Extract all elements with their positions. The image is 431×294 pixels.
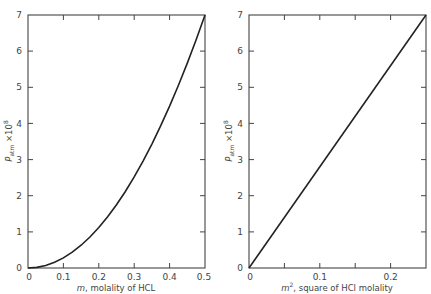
right-y-axis-label: Patm ×108 bbox=[222, 120, 235, 162]
left-y-tick-6: 6 bbox=[16, 46, 22, 56]
figure: 0 1 2 3 4 5 6 7 0 0.1 0.2 0.3 0.4 0.5 m,… bbox=[0, 0, 431, 294]
left-x-tick-1: 0.1 bbox=[56, 272, 70, 282]
left-curve bbox=[28, 15, 205, 268]
right-y-tick-6: 6 bbox=[237, 46, 243, 56]
left-y-tick-7: 7 bbox=[16, 10, 22, 20]
left-y-tick-2: 2 bbox=[16, 191, 22, 201]
left-y-tick-4: 4 bbox=[16, 119, 22, 129]
left-y-tick-5: 5 bbox=[16, 82, 22, 92]
left-y-axis-label: Patm ×108 bbox=[2, 120, 15, 162]
right-x-tick-2: 0.2 bbox=[383, 272, 397, 282]
right-y-tick-3: 3 bbox=[237, 155, 243, 165]
right-x-tick-0: 0 bbox=[247, 272, 253, 282]
right-y-tick-2: 2 bbox=[237, 191, 243, 201]
right-x-axis-label: m2, square of HCl molality bbox=[281, 281, 393, 293]
left-x-tick-2: 0.2 bbox=[92, 272, 106, 282]
left-x-tick-labels: 0 0.1 0.2 0.3 0.4 0.5 bbox=[26, 272, 211, 282]
left-x-tick-0: 0 bbox=[26, 272, 32, 282]
left-x-axis-label: m, molality of HCL bbox=[77, 283, 156, 293]
left-y-tick-labels: 0 1 2 3 4 5 6 7 bbox=[16, 10, 22, 273]
right-y-tick-0: 0 bbox=[237, 263, 243, 273]
right-x-tick-1: 0.1 bbox=[313, 272, 327, 282]
left-x-tick-4: 0.4 bbox=[162, 272, 177, 282]
right-y-tick-7: 7 bbox=[237, 10, 243, 20]
left-x-tick-3: 0.3 bbox=[127, 272, 141, 282]
left-y-tick-1: 1 bbox=[16, 227, 22, 237]
right-y-tick-1: 1 bbox=[237, 227, 243, 237]
right-plot: 0 1 2 3 4 5 6 7 0 0.1 0.2 m2, square of … bbox=[222, 10, 426, 293]
left-x-tick-5: 0.5 bbox=[197, 272, 211, 282]
left-plot: 0 1 2 3 4 5 6 7 0 0.1 0.2 0.3 0.4 0.5 m,… bbox=[2, 10, 211, 293]
right-y-tick-5: 5 bbox=[237, 82, 243, 92]
right-line bbox=[249, 15, 426, 268]
right-y-tick-labels: 0 1 2 3 4 5 6 7 bbox=[237, 10, 243, 273]
left-y-tick-0: 0 bbox=[16, 263, 22, 273]
left-y-tick-3: 3 bbox=[16, 155, 22, 165]
right-x-tick-labels: 0 0.1 0.2 bbox=[247, 272, 398, 282]
left-plot-frame bbox=[28, 15, 205, 268]
right-y-tick-4: 4 bbox=[237, 119, 243, 129]
